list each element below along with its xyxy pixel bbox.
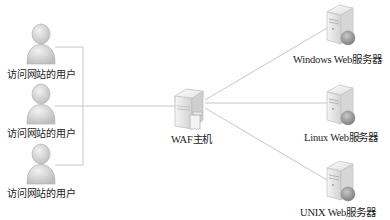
network-diagram: 访问网站的用户 访问网站的用户 访问网站的用户 WAF主机 [0, 0, 390, 220]
linux-server-node [323, 82, 359, 128]
user-label-1: 访问网站的用户 [7, 66, 76, 81]
web-server-icon [323, 82, 359, 128]
edge-waf-unix [205, 108, 327, 180]
user-icon [24, 22, 58, 66]
waf-node [172, 84, 208, 132]
waf-label: WAF主机 [171, 131, 212, 146]
web-server-icon [323, 158, 359, 204]
linux-server-label: Linux Web服务器 [304, 129, 378, 144]
web-server-icon [323, 2, 359, 48]
unix-server-node [323, 158, 359, 204]
firewall-server-icon [172, 84, 208, 132]
windows-server-label: Windows Web服务器 [293, 51, 381, 66]
user-label-3: 访问网站的用户 [7, 185, 76, 200]
user-label-2: 访问网站的用户 [7, 125, 76, 140]
user-node-2 [24, 82, 58, 126]
unix-server-label: UNIX Web服务器 [300, 204, 375, 219]
user-icon [24, 142, 58, 186]
user-icon [24, 82, 58, 126]
user-node-1 [24, 22, 58, 66]
user-node-3 [24, 142, 58, 186]
windows-server-node [323, 2, 359, 48]
